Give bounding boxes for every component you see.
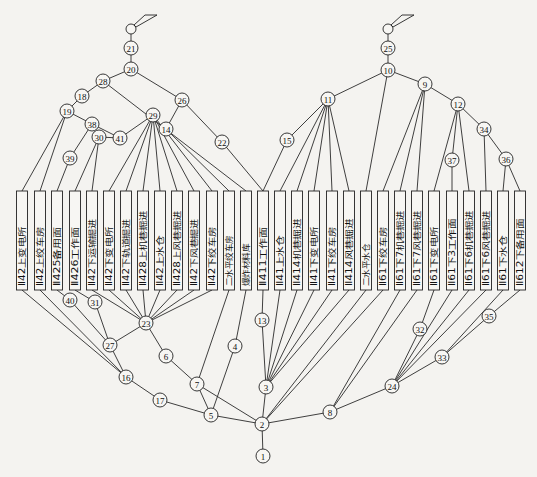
workplace-box[interactable]: Ⅱ42下运输掘进 xyxy=(87,191,98,290)
workplace-box[interactable]: Ⅱ61下7风巷掘进 xyxy=(412,191,423,290)
node-11[interactable]: 11 xyxy=(321,92,335,106)
workplace-label: Ⅱ61下3工作面 xyxy=(447,219,457,286)
workplace-label: Ⅱ41下变电所 xyxy=(309,227,319,286)
workplace-label: Ⅱ41下绞车房 xyxy=(327,227,337,286)
node-20[interactable]: 20 xyxy=(124,62,138,76)
workplace-box[interactable]: Ⅱ426工作面 xyxy=(70,191,81,290)
airway-edge xyxy=(197,290,229,384)
workplace-box[interactable]: Ⅱ61下6风巷掘进 xyxy=(481,191,492,290)
workplace-box[interactable]: Ⅱ42下轨道掘进 xyxy=(121,191,132,290)
node-8[interactable]: 8 xyxy=(323,405,337,419)
node-38[interactable]: 38 xyxy=(85,117,99,131)
airway-edge xyxy=(222,142,263,191)
node-9[interactable]: 9 xyxy=(418,77,432,91)
node-label: 24 xyxy=(388,382,398,392)
node-10[interactable]: 10 xyxy=(381,63,395,77)
node-27[interactable]: 27 xyxy=(103,338,117,352)
node-7[interactable]: 7 xyxy=(190,377,204,391)
workplace-label: Ⅱ414风巷掘进 xyxy=(344,219,354,286)
node-31[interactable]: 31 xyxy=(88,295,102,309)
node-label: 40 xyxy=(66,296,76,306)
workplace-box[interactable]: Ⅱ42下变电所 xyxy=(104,191,115,290)
node-5[interactable]: 5 xyxy=(204,408,218,422)
workplace-box[interactable]: Ⅱ42下绞车房 xyxy=(207,191,218,290)
node-15[interactable]: 15 xyxy=(280,133,294,147)
node-22[interactable]: 22 xyxy=(215,135,229,149)
workplace-box[interactable]: Ⅱ61下绞车房 xyxy=(378,191,389,290)
node-1[interactable]: 1 xyxy=(256,449,270,463)
node-label: 31 xyxy=(91,298,100,308)
workplace-label: Ⅱ42下风巷掘进 xyxy=(189,219,199,286)
node-label: 7 xyxy=(195,380,200,390)
node-36[interactable]: 36 xyxy=(499,152,513,166)
workplace-box[interactable]: Ⅱ425备用面 xyxy=(52,191,63,290)
workplace-box[interactable]: Ⅱ61下7机巷掘进 xyxy=(395,191,406,290)
node-32[interactable]: 32 xyxy=(413,322,427,336)
node-18[interactable]: 18 xyxy=(75,89,89,103)
workplace-label: Ⅱ42上水仓 xyxy=(155,236,165,286)
node-23[interactable]: 23 xyxy=(139,316,153,330)
workplace-box[interactable]: Ⅱ61下变电所 xyxy=(429,191,440,290)
node-2[interactable]: 2 xyxy=(255,417,269,431)
workplace-box[interactable]: 爆炸材料库 xyxy=(241,191,252,290)
workplace-label: Ⅱ42下轨道掘进 xyxy=(121,219,131,286)
node-label: 30 xyxy=(95,133,105,143)
airway-edge xyxy=(366,70,388,191)
workplace-box[interactable]: Ⅱ61下水仓 xyxy=(498,191,509,290)
node-34[interactable]: 34 xyxy=(477,122,491,136)
workplace-label: Ⅱ42上变电所 xyxy=(17,227,27,286)
node-33[interactable]: 33 xyxy=(435,350,449,364)
workplace-box[interactable]: 二水平水仓 xyxy=(361,191,372,290)
workplace-box[interactable]: Ⅱ61下6机巷掘进 xyxy=(464,191,475,290)
node-21[interactable]: 21 xyxy=(124,41,138,55)
node-16[interactable]: 16 xyxy=(119,370,133,384)
workplace-box[interactable]: Ⅱ414风巷掘进 xyxy=(344,191,355,290)
node-35[interactable]: 35 xyxy=(482,309,496,323)
node-17[interactable]: 17 xyxy=(153,393,167,407)
workplace-box[interactable]: Ⅱ42上水仓 xyxy=(155,191,166,290)
workplace-box[interactable]: Ⅱ41下变电所 xyxy=(309,191,320,290)
node-19[interactable]: 19 xyxy=(60,104,74,118)
workplace-label: Ⅱ425备用面 xyxy=(52,227,62,286)
node-30[interactable]: 30 xyxy=(92,130,106,144)
node-label: 2 xyxy=(260,420,265,430)
workplace-label: Ⅱ61下变电所 xyxy=(429,227,439,286)
workplace-box[interactable]: Ⅱ428上风巷掘进 xyxy=(172,191,183,290)
workplace-box[interactable]: Ⅱ42上绞车房 xyxy=(35,191,46,290)
workplace-box[interactable]: Ⅱ428上机巷掘进 xyxy=(138,191,149,290)
node-13[interactable]: 13 xyxy=(255,313,269,327)
ventilation-network-diagram: Ⅱ42上变电所Ⅱ42上绞车房Ⅱ425备用面Ⅱ426工作面Ⅱ42下运输掘进Ⅱ42下… xyxy=(0,0,537,477)
workplace-box[interactable]: Ⅱ42下风巷掘进 xyxy=(189,191,200,290)
node-6[interactable]: 6 xyxy=(159,349,173,363)
workplace-label: Ⅱ612下备用面 xyxy=(515,219,525,286)
node-25[interactable]: 25 xyxy=(381,41,395,55)
workplace-label: Ⅱ428上风巷掘进 xyxy=(172,210,182,286)
workplace-box[interactable]: Ⅱ414机巷掘进 xyxy=(292,191,303,290)
node-24[interactable]: 24 xyxy=(385,379,399,393)
workplace-box[interactable]: Ⅱ41下绞车房 xyxy=(327,191,338,290)
workplace-box[interactable]: 二水平绞车房 xyxy=(224,191,235,290)
shaft-collar-icon xyxy=(134,15,157,27)
node-26[interactable]: 26 xyxy=(175,93,189,107)
node-39[interactable]: 39 xyxy=(63,151,77,165)
node-12[interactable]: 12 xyxy=(451,97,465,111)
node-label: 23 xyxy=(142,319,152,329)
node-37[interactable]: 37 xyxy=(445,153,459,167)
workplace-box[interactable]: Ⅱ41上水仓 xyxy=(275,191,286,290)
node-label: 3 xyxy=(264,383,269,393)
node-label: 10 xyxy=(384,66,394,76)
node-14[interactable]: 14 xyxy=(159,122,173,136)
workplace-box[interactable]: Ⅱ612下备用面 xyxy=(515,191,526,290)
workplace-box[interactable]: Ⅱ61下3工作面 xyxy=(447,191,458,290)
node-29[interactable]: 29 xyxy=(146,108,160,122)
workplace-box[interactable]: Ⅱ42上变电所 xyxy=(17,191,28,290)
node-41[interactable]: 41 xyxy=(113,131,127,145)
node-40[interactable]: 40 xyxy=(63,293,77,307)
node-28[interactable]: 28 xyxy=(96,74,110,88)
airway-edge xyxy=(392,290,486,386)
node-label: 15 xyxy=(283,136,293,146)
node-label: 14 xyxy=(162,125,172,135)
workplace-box[interactable]: Ⅱ411工作面 xyxy=(258,191,269,290)
node-3[interactable]: 3 xyxy=(259,380,273,394)
node-4[interactable]: 4 xyxy=(228,339,242,353)
